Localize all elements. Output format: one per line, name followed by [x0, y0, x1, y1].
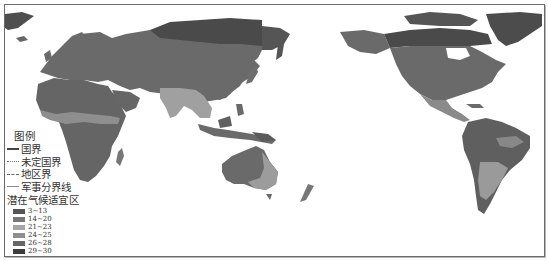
legend-zone-label: 24~25 — [28, 231, 52, 239]
region-greenland — [486, 12, 542, 46]
legend-boundary-label: 军事分界线 — [21, 181, 71, 194]
region-borneo — [218, 116, 232, 128]
color-swatch-icon — [13, 225, 25, 230]
thin-line-icon — [7, 186, 19, 187]
legend-zone-item: 3~13 — [13, 207, 107, 215]
region-alaska — [340, 30, 390, 54]
legend-boundary-label: 未定国界 — [21, 156, 61, 169]
legend-boundary-military: 军事分界线 — [7, 181, 107, 194]
color-swatch-icon — [13, 249, 25, 254]
color-swatch-icon — [13, 241, 25, 246]
legend-zone-item: 29~30 — [13, 247, 107, 255]
legend-zone-item: 24~25 — [13, 231, 107, 239]
solid-line-icon — [7, 148, 19, 150]
legend-boundary-label: 地区界 — [21, 168, 51, 181]
region-madagascar — [116, 148, 124, 166]
legend-zone-label: 3~13 — [28, 207, 47, 215]
legend: 图例 国界 未定国界 地区界 军事分界线 潜在气候适宜区 3~1314~2021… — [7, 130, 107, 255]
region-chukotka — [262, 26, 290, 50]
legend-boundary-undetermined: 未定国界 — [7, 156, 107, 169]
color-swatch-icon — [13, 209, 25, 214]
legend-zone-item: 26~28 — [13, 239, 107, 247]
dashed-line-icon — [7, 174, 19, 175]
color-swatch-icon — [13, 233, 25, 238]
region-tasmania — [266, 194, 272, 200]
region-cuba — [466, 104, 484, 108]
legend-boundary-label: 国界 — [21, 143, 41, 156]
legend-boundary-regional: 地区界 — [7, 168, 107, 181]
legend-zone-label: 14~20 — [28, 215, 52, 223]
legend-title: 图例 — [14, 130, 107, 143]
dotted-line-icon — [7, 161, 19, 162]
legend-zone-label: 21~23 — [28, 223, 52, 231]
region-iceland — [16, 36, 28, 42]
legend-zone-item: 21~23 — [13, 223, 107, 231]
legend-zone-label: 29~30 — [28, 247, 52, 255]
legend-zone-title: 潜在气候适宜区 — [7, 194, 107, 207]
legend-zone-list: 3~1314~2021~2324~2526~2829~30 — [7, 207, 107, 255]
region-philippines — [236, 104, 244, 116]
color-swatch-icon — [13, 217, 25, 222]
legend-boundary-national: 国界 — [7, 143, 107, 156]
region-canada-north — [384, 28, 492, 48]
region-arctic-islands — [404, 12, 478, 26]
legend-zone-item: 14~20 — [13, 215, 107, 223]
legend-zone-label: 26~28 — [28, 239, 52, 247]
region-greenland-left — [5, 12, 34, 30]
region-new-zealand — [300, 184, 314, 202]
